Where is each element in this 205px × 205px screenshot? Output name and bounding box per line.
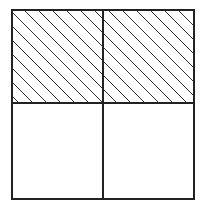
cell-bottom-right [103, 103, 194, 199]
fraction-grid-diagram [0, 0, 205, 205]
cell-top-right-shaded [103, 10, 194, 103]
cell-top-left-shaded [12, 10, 103, 103]
cell-bottom-left [12, 103, 103, 199]
